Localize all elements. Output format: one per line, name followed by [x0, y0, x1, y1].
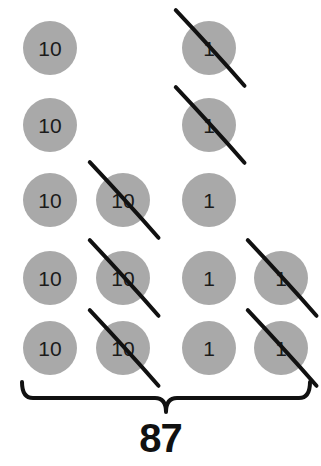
- counter-r4c3[interactable]: 1: [182, 251, 236, 305]
- counter-r4c4[interactable]: 1: [254, 251, 308, 305]
- counter-r5c3-label: 1: [203, 338, 215, 359]
- counter-r4c4-label: 1: [275, 268, 287, 289]
- counter-r5c4-label: 1: [275, 338, 287, 359]
- counter-r2c3[interactable]: 1: [182, 98, 236, 152]
- counter-r2c3-label: 1: [203, 115, 215, 136]
- counter-r3c3[interactable]: 1: [182, 173, 236, 227]
- counter-r2c1-label: 10: [38, 115, 61, 136]
- counter-r3c1[interactable]: 10: [23, 173, 77, 227]
- counter-r3c3-label: 1: [203, 190, 215, 211]
- counter-r4c2[interactable]: 10: [96, 251, 150, 305]
- worksheet-canvas: 10110110101101011101011 87: [0, 0, 321, 466]
- counter-r3c2-label: 10: [111, 190, 134, 211]
- counter-r5c2[interactable]: 10: [96, 321, 150, 375]
- counter-r3c1-label: 10: [38, 190, 61, 211]
- counter-r5c2-label: 10: [111, 338, 134, 359]
- counter-r5c4[interactable]: 1: [254, 321, 308, 375]
- counter-r4c1[interactable]: 10: [23, 251, 77, 305]
- counter-r1c1-label: 10: [38, 38, 61, 59]
- counter-r1c3[interactable]: 1: [182, 21, 236, 75]
- counter-r5c1[interactable]: 10: [23, 321, 77, 375]
- counter-r1c3-label: 1: [203, 38, 215, 59]
- counter-r3c2[interactable]: 10: [96, 173, 150, 227]
- counter-r4c1-label: 10: [38, 268, 61, 289]
- counters-area: 10110110101101011101011: [0, 0, 321, 466]
- counter-r5c3[interactable]: 1: [182, 321, 236, 375]
- total-value: 87: [0, 418, 321, 458]
- counter-r1c1[interactable]: 10: [23, 21, 77, 75]
- counter-r4c2-label: 10: [111, 268, 134, 289]
- counter-r5c1-label: 10: [38, 338, 61, 359]
- counter-r2c1[interactable]: 10: [23, 98, 77, 152]
- counter-r4c3-label: 1: [203, 268, 215, 289]
